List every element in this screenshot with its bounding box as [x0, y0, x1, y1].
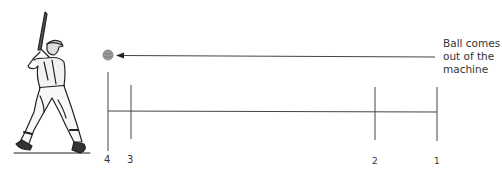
ball-source-annotation: Ball comes out of the machine	[443, 37, 500, 76]
annotation-line-1: Ball comes	[443, 37, 500, 50]
marker-label-4: 4	[104, 155, 110, 165]
batter-illustration	[14, 12, 90, 153]
marker-label-1: 1	[434, 157, 440, 166]
diagram-canvas	[0, 0, 502, 174]
ball-path-arrow	[116, 53, 435, 59]
marker-label-3: 3	[127, 155, 133, 165]
pitch-diagram: 4 3 2 1 Ball comes out of the machine	[0, 0, 502, 174]
marker-label-2: 2	[372, 157, 378, 166]
annotation-line-3: machine	[443, 63, 500, 76]
distance-axis	[108, 111, 437, 112]
annotation-line-2: out of the	[443, 50, 500, 63]
baseball-icon	[103, 50, 113, 60]
